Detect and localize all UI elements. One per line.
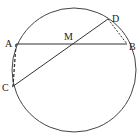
circle (12, 8, 136, 132)
label-d: D (112, 13, 119, 24)
label-a: A (5, 38, 13, 49)
label-c: C (2, 82, 9, 93)
chord-cd (12, 19, 108, 87)
label-b: B (129, 41, 136, 52)
dashed-segment-ac (13, 44, 16, 86)
label-m: M (64, 31, 73, 42)
geometry-diagram: A B C D M (0, 0, 140, 137)
